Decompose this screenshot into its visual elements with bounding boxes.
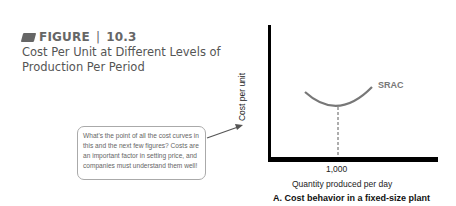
srac-curve bbox=[305, 87, 372, 106]
y-axis bbox=[268, 25, 271, 162]
chart-caption: A. Cost behavior in a fixed-size plant bbox=[273, 193, 430, 203]
callout-arrow bbox=[207, 127, 238, 138]
x-axis-label: Quantity produced per day bbox=[292, 179, 392, 189]
x-tick-1000: 1,000 bbox=[326, 164, 347, 174]
y-axis-label: Cost per unit bbox=[237, 57, 247, 137]
chart-graphics bbox=[0, 0, 456, 206]
x-axis bbox=[268, 157, 438, 162]
srac-label: SRAC bbox=[378, 80, 404, 90]
